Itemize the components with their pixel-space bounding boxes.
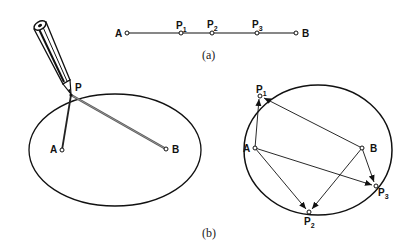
point-p-left: [69, 93, 72, 96]
label-b-right: B: [370, 143, 377, 154]
caption-a: (a): [202, 48, 215, 62]
point-a: [125, 31, 129, 35]
vector-a-p1: [255, 99, 259, 148]
label-b: B: [302, 28, 309, 39]
part-b-right-focal-vectors: A B P1 P2 P3: [243, 84, 392, 229]
label-p2-right: P2: [304, 216, 315, 229]
focus-a-right: [253, 146, 257, 150]
focus-b-left: [164, 147, 168, 151]
vector-b-p1: [264, 98, 362, 148]
label-p3: P3: [252, 19, 263, 32]
label-b-left: B: [172, 144, 179, 155]
point-p2-right: [307, 210, 311, 214]
ellipse-construction-figure: A P1 P2 P3 B (a) P A B: [0, 0, 410, 243]
caption-b: (b): [202, 226, 216, 240]
label-a: A: [115, 28, 122, 39]
part-b-left-string-ellipse: P A B: [29, 19, 201, 206]
label-a-right: A: [243, 143, 250, 154]
pencil-icon: [32, 19, 71, 94]
vector-a-p3: [255, 148, 372, 185]
focus-b-right: [360, 146, 364, 150]
label-p-left: P: [75, 82, 82, 93]
label-a-left: A: [50, 144, 57, 155]
vector-a-p2: [255, 148, 306, 209]
point-b: [294, 31, 298, 35]
label-p2: P2: [207, 19, 218, 32]
focus-a-left: [60, 148, 64, 152]
part-a-line-diagram: A P1 P2 P3 B (a): [115, 19, 309, 62]
label-p3-right: P3: [378, 187, 389, 200]
vector-b-p2: [312, 148, 362, 209]
